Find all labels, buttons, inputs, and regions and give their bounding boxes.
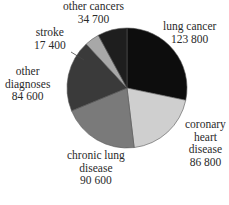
label-chronic-name-2: disease	[67, 162, 125, 175]
label-stroke-name: stroke	[34, 26, 66, 39]
label-lung-cancer: lung cancer 123 800	[163, 20, 216, 45]
label-other-diagnoses-value: 84 600	[5, 90, 50, 103]
label-other-cancers-name: other cancers	[63, 0, 124, 13]
label-coronary-name-1: coronary	[185, 118, 226, 131]
label-other-cancers-value: 34 700	[63, 13, 124, 26]
label-other-cancers: other cancers 34 700	[63, 0, 124, 25]
label-chronic-name-1: chronic lung	[67, 149, 125, 162]
label-stroke: stroke 17 400	[34, 26, 66, 51]
label-chronic-lung-disease: chronic lung disease 90 600	[67, 149, 125, 187]
label-other-diagnoses-name-2: diagnoses	[5, 78, 50, 91]
label-coronary-value: 86 800	[185, 156, 226, 169]
label-other-diagnoses: other diagnoses 84 600	[5, 65, 50, 103]
label-other-diagnoses-name-1: other	[5, 65, 50, 78]
label-lung-cancer-name: lung cancer	[163, 20, 216, 33]
label-stroke-value: 17 400	[34, 39, 66, 52]
label-coronary-name-2: heart	[185, 131, 226, 144]
label-chronic-value: 90 600	[67, 174, 125, 187]
label-coronary-heart-disease: coronary heart disease 86 800	[185, 118, 226, 168]
label-coronary-name-3: disease	[185, 143, 226, 156]
label-lung-cancer-value: 123 800	[163, 33, 216, 46]
